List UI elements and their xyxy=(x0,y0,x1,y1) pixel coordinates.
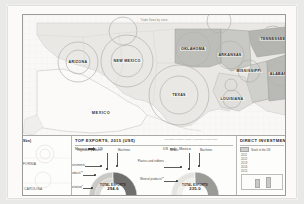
map-label-new-mexico: NEW MEXICO xyxy=(112,59,141,63)
map-label-arizona: ARIZONA xyxy=(68,60,89,64)
donut-1-leader-a xyxy=(107,153,108,169)
donut-1-cat-transportation: Transportation* xyxy=(72,186,83,189)
donut-1-dot-e xyxy=(91,187,93,189)
trade-map[interactable]: Trade flows by state ARIZONA NEW MEXICO … xyxy=(23,15,285,135)
map-label-tennessee: TENNESSEE xyxy=(260,37,285,41)
top-exports-panel: TOP EXPORTS, 2015 (US$) *Includes vehicl… xyxy=(72,136,236,195)
donut-2-cat-metals: Metals xyxy=(170,149,194,152)
donut-chart-us-to-mexico[interactable]: TOTAL EXPORTS 235.0 Metals Machines Plas… xyxy=(156,154,234,195)
donut-1-dot-b xyxy=(116,165,118,167)
donut-1-cat-machines: Machines xyxy=(118,149,148,152)
direct-investment-legend-label: Stock in the US xyxy=(251,148,270,152)
direct-investment-title-rule xyxy=(240,145,284,146)
map-label-mexico: MEXICO xyxy=(91,110,111,115)
direct-investment-title: DIRECT INVESTMENT xyxy=(240,138,285,143)
document-page: Trade flows by state ARIZONA NEW MEXICO … xyxy=(8,6,296,198)
direct-investment-minichart[interactable] xyxy=(241,174,283,190)
donut-1-cat-instruments: Instruments xyxy=(72,164,85,167)
donut-2-center: TOTAL EXPORTS 235.0 xyxy=(182,184,208,192)
donut-2-leader-c xyxy=(164,167,181,168)
year-row-2015: 2015 xyxy=(241,170,247,174)
donut-1-cat-mineral: Mineral products** xyxy=(72,172,83,175)
map-label-arkansas: ARKANSAS xyxy=(217,53,242,57)
donut-2-total-value: 235.0 xyxy=(182,187,208,192)
legend-swatch-icon xyxy=(240,147,249,152)
donut-1-cat-vegetable: Vegetable products xyxy=(77,149,109,152)
donut-2-cat-plastics: Plastics and rubbers xyxy=(130,160,164,163)
lower-panels: ($USbn) CALIFORNIA NORTH CAROLINA TOP EX… xyxy=(23,136,285,195)
left-cropped-panel: ($USbn) CALIFORNIA NORTH CAROLINA xyxy=(23,136,71,195)
map-label-alabama: ALABAMA xyxy=(269,72,285,76)
left-panel-decoration xyxy=(23,136,71,195)
donut-2-cat-mineral: Mineral products** xyxy=(130,178,164,181)
donut-2-dot-d xyxy=(176,180,178,182)
minichart-bar-1 xyxy=(255,179,260,188)
minichart-bar-2 xyxy=(266,177,271,188)
donut-2-dot-a xyxy=(188,168,190,170)
donut-2-cat-machines: Machines xyxy=(200,149,230,152)
exports-footnote: *Includes vehicle parts **Includes petro… xyxy=(164,138,217,141)
legend-label-us-2: US xyxy=(163,147,168,151)
map-top-note: Trade flows by state xyxy=(140,19,167,22)
infographic-plate: Trade flows by state ARIZONA NEW MEXICO … xyxy=(22,14,286,196)
donut-2-leader-a xyxy=(189,153,190,169)
donut-1-total-value: 294.6 xyxy=(100,187,126,192)
donut-1-dot-d xyxy=(94,174,96,176)
donut-1-center: TOTAL EXPORTS 294.6 xyxy=(100,184,126,192)
donut-2-dot-c xyxy=(180,166,182,168)
direct-investment-legend[interactable]: Stock in the US xyxy=(240,147,270,152)
donut-1-leader-c xyxy=(85,166,101,167)
direct-investment-years: 2011 2012 2013 2014 2015 xyxy=(241,154,247,174)
map-label-oklahoma: OKLAHOMA xyxy=(180,47,206,51)
map-label-louisiana: LOUISIANA xyxy=(220,97,245,101)
direct-investment-panel: DIRECT INVESTMENT Stock in the US 2011 2… xyxy=(237,136,285,195)
exports-title-rule xyxy=(75,145,233,146)
donut-1-dot-a xyxy=(106,168,108,170)
donut-2-dot-b xyxy=(198,165,200,167)
map-label-texas: TEXAS xyxy=(171,93,187,97)
donut-1-dot-c xyxy=(100,165,102,167)
state-shape-arkansas xyxy=(221,29,251,71)
map-geometry xyxy=(23,15,285,135)
map-label-mississippi: MISSISSIPPI xyxy=(235,69,262,73)
